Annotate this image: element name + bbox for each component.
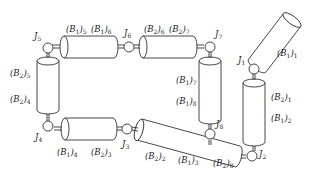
joint-j5 xyxy=(43,43,53,53)
label-b2-2: (B2)2 xyxy=(145,151,166,162)
label-b2-6: (B2)6 xyxy=(144,24,165,35)
label-b2-7: (B2)7 xyxy=(169,24,190,35)
label-j8: J8 xyxy=(214,119,223,130)
link-b1-1 xyxy=(248,10,303,73)
label-b2-1: (B2)1 xyxy=(271,92,292,103)
label-j5: J5 xyxy=(32,31,41,42)
joint-j7 xyxy=(205,42,215,52)
label-b1-1: (B1)1 xyxy=(277,48,298,59)
label-j4: J4 xyxy=(33,132,42,143)
label-b1-3: (B1)3 xyxy=(178,155,199,166)
label-b1-5: (B1)5 xyxy=(66,24,87,35)
link-b1-5-b1-6 xyxy=(60,36,118,58)
link-b1-7-b1-8 xyxy=(199,57,221,124)
joint-j1 xyxy=(249,64,259,74)
joint-j4 xyxy=(43,121,53,131)
label-b2-4: (B2)4 xyxy=(10,94,31,105)
link-b2-6-b2-7 xyxy=(139,36,197,58)
joint-j6 xyxy=(124,42,134,52)
label-j7: J7 xyxy=(213,29,222,40)
joint-j8 xyxy=(205,129,215,139)
label-b1-2: (B1)2 xyxy=(271,113,292,124)
label-j2: J2 xyxy=(257,149,266,160)
link-b1-4-b2-3 xyxy=(61,118,117,140)
label-j3: J3 xyxy=(120,139,129,150)
link-b2-1-b1-2 xyxy=(243,79,265,146)
robot-chain-diagram: J5 J6 J7 J4 J3 J8 J2 J1 (B1)5 (B1)6 (B2)… xyxy=(0,0,310,177)
label-b1-6: (B1)6 xyxy=(91,24,112,35)
label-b2-5: (B2)5 xyxy=(10,68,31,79)
label-j6: J6 xyxy=(122,28,131,39)
label-b1-8: (B1)8 xyxy=(176,96,197,107)
link-b2-5-b2-4 xyxy=(37,57,59,114)
joint-j3 xyxy=(122,124,132,134)
label-j1: J1 xyxy=(236,55,245,66)
label-b1-4: (B1)4 xyxy=(57,147,78,158)
label-b1-7: (B1)7 xyxy=(176,75,197,86)
joint-j2 xyxy=(247,151,257,161)
label-b2-3: (B2)3 xyxy=(91,147,112,158)
